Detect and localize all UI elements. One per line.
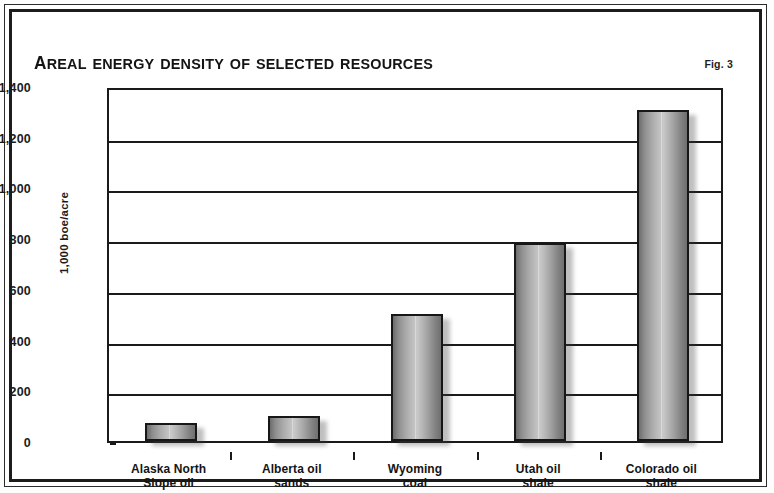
y-axis-tick-label: 0 [0,436,31,450]
gridline [109,141,721,143]
y-axis-tick-label: 1,200 [0,132,31,146]
bar [637,110,689,441]
y-axis-tick-label: 800 [0,233,31,247]
x-axis-category-label: Utah oilshale [477,462,600,490]
page-title: Areal energy density of selected resourc… [34,45,433,76]
x-axis-tick-mark [230,452,232,460]
y-axis-tick-label: 1,400 [0,81,31,95]
x-axis-category-label: Colorado oilshale [600,462,723,490]
bar [268,416,320,441]
x-axis-category-label: Alberta oilsands [230,462,353,490]
bar [145,423,197,441]
x-axis-tick-mark [353,452,355,460]
gridline [109,242,721,244]
y-axis-tick-label: 200 [0,385,31,399]
bar-body [391,314,443,441]
plot-area [107,88,723,443]
gridline [109,293,721,295]
y-axis-title: 1,000 boe/acre [58,192,70,274]
y-axis-tick-mark [110,443,116,445]
x-axis-category-label: Wyomingcoal [353,462,476,490]
figure-number-label: Fig. 3 [704,58,733,70]
bar-body [268,416,320,441]
figure-root: Areal energy density of selected resourc… [0,0,774,493]
inner-border: Areal energy density of selected resourc… [9,9,762,482]
bar [514,243,566,441]
bar-body [514,243,566,441]
x-axis-tick-mark [477,452,479,460]
y-axis-tick-label: 600 [0,284,31,298]
x-axis-category-label: Alaska NorthSlope oil [107,462,230,490]
x-axis-tick-mark [600,452,602,460]
gridline [109,191,721,193]
y-axis-tick-label: 400 [0,335,31,349]
bar-body [145,423,197,441]
bar [391,314,443,441]
bar-body [637,110,689,441]
y-axis-tick-label: 1,000 [0,182,31,196]
